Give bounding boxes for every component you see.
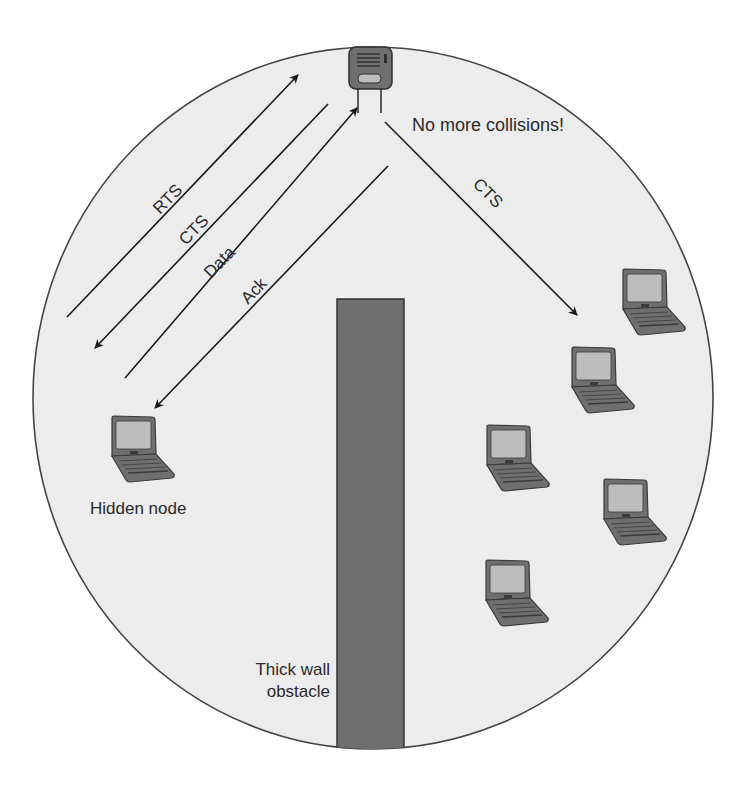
no-more-collisions-note: No more collisions! [412,115,564,135]
rts-cts-diagram: Thick wall obstacle No more collisions! … [0,0,747,787]
wall-label-line1: Thick wall [255,660,330,679]
wall-label-line2: obstacle [267,682,330,701]
hidden-node-label: Hidden node [90,499,186,518]
thick-wall-obstacle [337,299,404,759]
